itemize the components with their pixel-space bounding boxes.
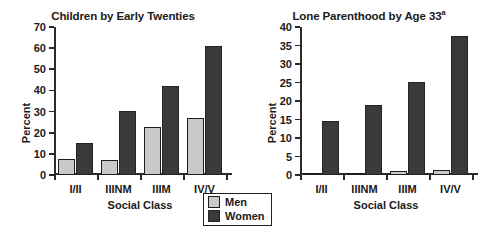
y-axis-tick-label: 20 xyxy=(34,127,46,138)
bar-men-iiim xyxy=(144,127,161,175)
bar-men-iv-v xyxy=(433,170,450,175)
y-axis-tick-label: 10 xyxy=(34,148,46,159)
y-axis-tick-label: 15 xyxy=(280,114,292,125)
bar-women-iiinm xyxy=(365,105,382,175)
figure: Children by Early Twenties Percent 01020… xyxy=(0,0,492,246)
bar-group: IV/V xyxy=(429,27,472,175)
x-axis-tick xyxy=(343,175,345,180)
chart-title-text: Lone Parenthood by Age 33 xyxy=(292,10,441,22)
bar-group: IIIM xyxy=(140,27,183,175)
bar-men-iiinm xyxy=(347,173,364,175)
y-axis-tick-label: 30 xyxy=(280,59,292,70)
bar-women-iiim xyxy=(408,82,425,175)
y-axis-tick-label: 70 xyxy=(34,22,46,33)
x-axis-tick xyxy=(226,175,228,180)
y-axis-label: Percent xyxy=(20,103,32,143)
x-axis-category-label: IIINM xyxy=(97,183,140,195)
plot-area: 0510152025303540I/IIIIINMIIIMIV/V xyxy=(300,27,472,175)
chart-title-text: Children by Early Twenties xyxy=(51,10,195,22)
bar-group: I/II xyxy=(54,27,97,175)
legend-item-men: Men xyxy=(208,196,265,209)
plot-area: 010203040506070I/IIIIINMIIIMIV/V xyxy=(54,27,226,175)
bar-women-i-ii xyxy=(322,121,339,175)
y-axis-tick-label: 50 xyxy=(34,64,46,75)
x-axis-category-label: I/II xyxy=(300,183,343,195)
bar-group: I/II xyxy=(300,27,343,175)
legend-label: Men xyxy=(225,196,247,209)
x-axis-tick xyxy=(140,175,142,180)
x-axis-tick xyxy=(386,175,388,180)
bar-men-iv-v xyxy=(187,118,204,175)
bar-group: IV/V xyxy=(183,27,226,175)
bar-group: IIINM xyxy=(343,27,386,175)
x-axis-category-label: IIIM xyxy=(140,183,183,195)
y-axis-tick-label: 10 xyxy=(280,133,292,144)
x-axis-tick xyxy=(54,175,56,180)
bar-men-i-ii xyxy=(58,159,75,175)
bar-women-iv-v xyxy=(205,46,222,175)
x-axis-category-label: IIIM xyxy=(386,183,429,195)
x-axis-tick xyxy=(429,175,431,180)
bar-women-iv-v xyxy=(451,36,468,175)
chart-title-superscript: a xyxy=(442,8,446,17)
y-axis-tick-label: 5 xyxy=(286,151,292,162)
bar-men-i-ii xyxy=(304,173,321,175)
y-axis-tick-label: 60 xyxy=(34,43,46,54)
bar-women-iiinm xyxy=(119,111,136,175)
bar-men-iiinm xyxy=(101,160,118,175)
x-axis-tick xyxy=(300,175,302,180)
y-axis-tick-label: 30 xyxy=(34,106,46,117)
legend-swatch-men xyxy=(208,196,220,208)
x-axis-category-label: IV/V xyxy=(429,183,472,195)
bar-women-i-ii xyxy=(76,143,93,175)
x-axis-label: Social Class xyxy=(54,199,226,211)
y-axis-tick-label: 35 xyxy=(280,40,292,51)
chart-panel-lone-parenthood-by-age-33: Lone Parenthood by Age 33a Percent 05101… xyxy=(246,0,492,246)
legend: MenWomen xyxy=(203,193,272,226)
bar-women-iiim xyxy=(162,86,179,175)
bar-group: IIIM xyxy=(386,27,429,175)
x-axis-label: Social Class xyxy=(300,199,472,211)
y-axis-tick-label: 25 xyxy=(280,77,292,88)
bar-group: IIINM xyxy=(97,27,140,175)
x-axis-tick xyxy=(472,175,474,180)
y-axis-tick-label: 20 xyxy=(280,96,292,107)
legend-label: Women xyxy=(225,210,265,223)
bar-men-iiim xyxy=(390,171,407,175)
legend-swatch-women xyxy=(208,210,220,222)
y-axis-label: Percent xyxy=(266,103,278,143)
y-axis-tick-label: 40 xyxy=(34,85,46,96)
x-axis-category-label: I/II xyxy=(54,183,97,195)
x-axis-tick xyxy=(97,175,99,180)
y-axis-tick-label: 40 xyxy=(280,22,292,33)
y-axis-tick-label: 0 xyxy=(286,170,292,181)
x-axis-tick xyxy=(183,175,185,180)
legend-item-women: Women xyxy=(208,210,265,223)
bar-groups: I/IIIIINMIIIMIV/V xyxy=(300,27,472,175)
x-axis-category-label: IIINM xyxy=(343,183,386,195)
y-axis-tick-label: 0 xyxy=(40,170,46,181)
bar-groups: I/IIIIINMIIIMIV/V xyxy=(54,27,226,175)
